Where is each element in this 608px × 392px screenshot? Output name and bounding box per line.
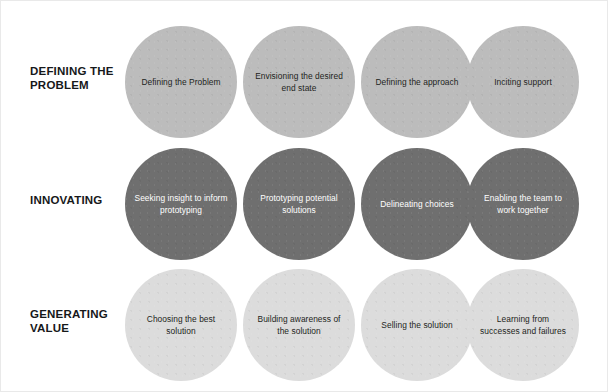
circle-label: Envisioning the desired end state — [243, 70, 355, 94]
circle-label: Choosing the best solution — [125, 313, 237, 337]
circle-label: Delineating choices — [371, 198, 463, 210]
row-label-defining-the-problem: DEFINING THE PROBLEM — [30, 64, 134, 92]
circle-defining-the-problem-2[interactable]: Envisioning the desired end state — [243, 26, 355, 138]
row-label-innovating: INNOVATING — [30, 193, 134, 207]
circle-label: Selling the solution — [372, 319, 461, 331]
circle-label: Learning from successes and failures — [467, 313, 579, 337]
circle-label: Prototyping potential solutions — [243, 192, 355, 216]
circle-label: Enabling the team to work together — [467, 192, 579, 216]
circle-defining-the-problem-4[interactable]: Inciting support — [467, 26, 579, 138]
diagram-row-innovating: INNOVATING Seeking insight to inform pro… — [1, 148, 608, 260]
diagram-row-generating-value: GENERATING VALUE Choosing the best solut… — [1, 269, 608, 381]
circle-innovating-2[interactable]: Prototyping potential solutions — [243, 148, 355, 260]
circle-generating-value-4[interactable]: Learning from successes and failures — [467, 269, 579, 381]
circle-defining-the-problem-1[interactable]: Defining the Problem — [125, 26, 237, 138]
circle-innovating-1[interactable]: Seeking insight to inform prototyping — [125, 148, 237, 260]
circle-generating-value-1[interactable]: Choosing the best solution — [125, 269, 237, 381]
circle-label: Inciting support — [485, 76, 561, 88]
circle-label: Seeking insight to inform prototyping — [125, 192, 237, 216]
diagram-row-defining-the-problem: DEFINING THE PROBLEM Defining the Proble… — [1, 26, 608, 138]
circle-label: Defining the approach — [367, 76, 468, 88]
process-diagram: DEFINING THE PROBLEM Defining the Proble… — [0, 0, 608, 392]
circle-label: Defining the Problem — [132, 76, 229, 88]
circle-generating-value-3[interactable]: Selling the solution — [361, 269, 473, 381]
circle-label: Building awareness of the solution — [243, 313, 355, 337]
row-label-generating-value: GENERATING VALUE — [30, 307, 134, 335]
circle-innovating-4[interactable]: Enabling the team to work together — [467, 148, 579, 260]
circle-innovating-3[interactable]: Delineating choices — [361, 148, 473, 260]
circle-defining-the-problem-3[interactable]: Defining the approach — [361, 26, 473, 138]
circle-generating-value-2[interactable]: Building awareness of the solution — [243, 269, 355, 381]
